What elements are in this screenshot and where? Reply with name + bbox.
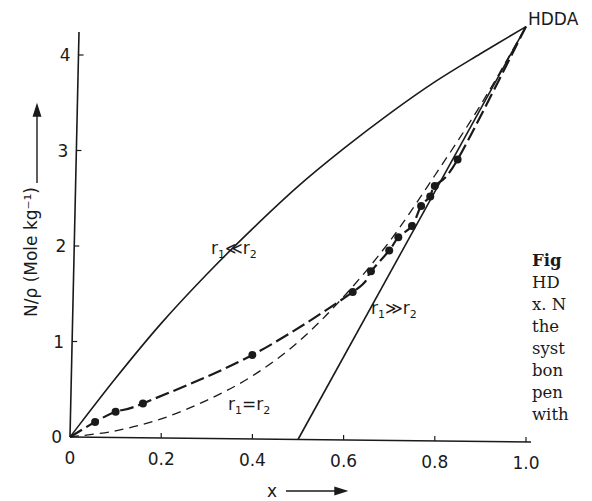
x-tick-label: 0: [65, 448, 76, 468]
series-line-experimental: [70, 27, 526, 437]
caption-line: Fig: [532, 250, 592, 272]
series-line-r1-r2: [70, 27, 526, 437]
y-tick-label: 3: [58, 141, 69, 161]
data-point-marker: [367, 267, 375, 275]
y-tick-label: 4: [60, 45, 71, 65]
data-point-marker: [417, 202, 425, 210]
data-point-marker: [408, 222, 416, 230]
data-point-marker: [431, 182, 439, 190]
y-axis: [70, 32, 79, 437]
y-tick-label: 2: [55, 236, 66, 256]
caption-line: bon: [532, 360, 592, 382]
label-r1-much-less-r2: r1≪r2: [211, 238, 257, 261]
data-point-marker: [385, 246, 393, 254]
caption-line: pen: [532, 382, 592, 404]
figure-caption: Fig HD x. N the syst bon pen with: [532, 250, 592, 426]
y-axis-label: N/ρ (Mole kg⁻¹): [21, 187, 41, 317]
x-axis-arrow: [286, 488, 346, 495]
end-label-hdda: HDDA: [528, 9, 579, 29]
label-r1-much-greater-r2: r1≫r2: [371, 298, 417, 321]
label-r1-equals-r2: r1=r2: [228, 394, 270, 417]
series-line-r1-r2: [298, 27, 526, 440]
y-axis-title: N/ρ (Mole kg⁻¹): [21, 187, 41, 317]
data-point-marker: [91, 418, 99, 426]
y-ticks: 01234: [51, 45, 83, 447]
data-point-marker: [454, 156, 462, 164]
y-axis-arrow: [34, 105, 41, 183]
x-tick-label: 0.6: [330, 451, 357, 471]
data-point-marker: [248, 351, 256, 359]
caption-line: syst: [532, 338, 592, 360]
x-tick-label: 0.2: [148, 449, 175, 469]
data-point-marker: [426, 192, 434, 200]
x-axis: [70, 437, 531, 442]
y-tick-label: 0: [51, 427, 62, 447]
x-axis-title: x: [267, 481, 277, 501]
data-point-marker: [394, 233, 402, 241]
x-tick-label: 1.0: [512, 453, 539, 473]
chart: 01234 00.20.40.60.81.0 N/ρ (Mole kg⁻¹) x…: [0, 0, 592, 501]
series-group: [70, 27, 526, 440]
x-tick-label: 0.4: [239, 450, 266, 470]
axes: [70, 32, 531, 442]
caption-line: the: [532, 316, 592, 338]
caption-line: HD: [532, 272, 592, 294]
data-point-marker: [349, 288, 357, 296]
x-tick-label: 0.8: [421, 452, 448, 472]
y-tick-label: 1: [53, 332, 64, 352]
caption-line: x. N: [532, 294, 592, 316]
data-point-marker: [112, 408, 120, 416]
caption-line: with: [532, 404, 592, 426]
series-line-r1-r2: [70, 27, 526, 437]
data-point-marker: [139, 399, 147, 407]
